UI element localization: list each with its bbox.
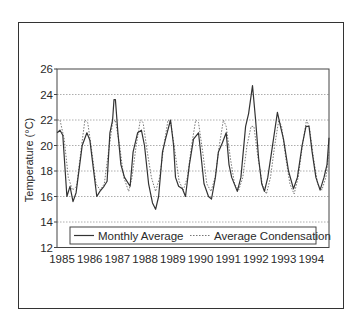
legend-label-average-condensation: Average Condensation <box>214 230 331 242</box>
gridlines <box>57 95 329 223</box>
y-tick-label: 24 <box>40 89 53 101</box>
x-axis: 1985198619871988198919901991199219931994 <box>49 253 324 265</box>
y-tick-label: 16 <box>40 191 53 203</box>
plot-area <box>57 69 329 248</box>
y-axis: 1214161820222426 <box>40 63 57 254</box>
legend: Monthly Average Average Condensation <box>70 227 331 244</box>
line-chart: 1214161820222426 19851986198719881989199… <box>0 0 364 331</box>
y-tick-label: 22 <box>40 114 53 126</box>
legend-label-monthly-average: Monthly Average <box>98 230 183 242</box>
y-tick-label: 14 <box>40 216 53 228</box>
x-tick-label: 1989 <box>160 253 186 265</box>
x-tick-label: 1993 <box>271 253 297 265</box>
x-tick-label: 1988 <box>132 253 158 265</box>
y-tick-label: 12 <box>40 242 53 254</box>
x-tick-label: 1987 <box>105 253 131 265</box>
y-tick-label: 26 <box>40 63 53 75</box>
x-tick-label: 1991 <box>215 253 241 265</box>
x-tick-label: 1990 <box>188 253 214 265</box>
x-tick-label: 1994 <box>299 253 325 265</box>
y-axis-label: Temperature (°C) <box>23 118 35 202</box>
x-tick-label: 1986 <box>77 253 103 265</box>
series-monthly-average <box>57 86 329 210</box>
x-tick-label: 1992 <box>243 253 269 265</box>
y-tick-label: 18 <box>40 165 53 177</box>
series-average-condensation <box>57 120 329 194</box>
y-tick-label: 20 <box>40 140 53 152</box>
x-tick-label: 1985 <box>49 253 75 265</box>
